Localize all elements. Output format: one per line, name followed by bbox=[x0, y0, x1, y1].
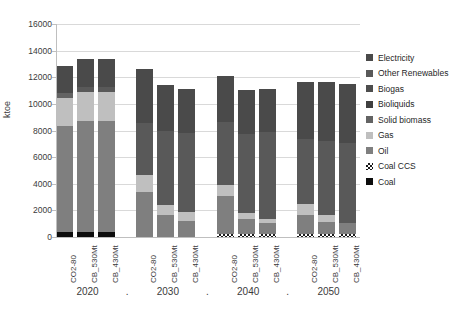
legend-label: Oil bbox=[378, 146, 388, 156]
x-axis-tick-label: CB_530Mt bbox=[331, 245, 340, 283]
legend-label: Other Renewables bbox=[378, 68, 448, 78]
group-separator: . bbox=[206, 286, 209, 297]
bar-segment-solid-biomass bbox=[56, 93, 73, 98]
legend-swatch-icon bbox=[366, 132, 373, 139]
bar-segment-oil bbox=[178, 221, 195, 237]
bar-segment-gas bbox=[318, 215, 335, 222]
stacked-bar[interactable] bbox=[318, 24, 335, 237]
y-axis-line bbox=[56, 24, 57, 237]
x-axis-group-labels: 2020.2030.2040.2050 bbox=[56, 286, 360, 304]
x-axis-tick-label: CB_530Mt bbox=[90, 245, 99, 283]
x-axis-tick-label: CO2-80 bbox=[310, 255, 319, 283]
bar-segment-electricity bbox=[98, 59, 115, 87]
legend-item[interactable]: Biogas bbox=[366, 81, 466, 97]
bar-segment-oil bbox=[339, 223, 356, 233]
bar-group bbox=[136, 24, 199, 237]
legend-swatch-icon bbox=[366, 116, 373, 123]
legend-swatch-icon bbox=[366, 70, 373, 77]
stacked-bar[interactable] bbox=[136, 24, 153, 237]
bar-segment-oil bbox=[217, 196, 234, 234]
bar-group bbox=[297, 24, 360, 237]
bar-segment-other-renewables bbox=[297, 139, 314, 205]
bar-segment-electricity bbox=[56, 66, 73, 93]
stacked-bar[interactable] bbox=[259, 24, 276, 237]
legend-item[interactable]: Coal CCS bbox=[366, 159, 466, 175]
y-axis-tick-label: 12000 bbox=[8, 72, 52, 82]
bar-segment-oil bbox=[157, 215, 174, 237]
legend-label: Solid biomass bbox=[378, 115, 431, 125]
legend-item[interactable]: Other Renewables bbox=[366, 66, 466, 82]
legend-label: Coal CCS bbox=[378, 161, 416, 171]
legend-item[interactable]: Coal bbox=[366, 174, 466, 190]
legend-swatch-icon bbox=[366, 54, 373, 61]
y-axis-tick-label: 2000 bbox=[8, 205, 52, 215]
legend-item[interactable]: Oil bbox=[366, 143, 466, 159]
legend-label: Electricity bbox=[378, 53, 414, 63]
stacked-bar[interactable] bbox=[217, 24, 234, 237]
bar-segment-gas bbox=[217, 185, 234, 196]
bar-segment-gas bbox=[259, 219, 276, 223]
legend-item[interactable]: Electricity bbox=[366, 50, 466, 66]
bar-segment-oil bbox=[297, 215, 314, 233]
bar-segment-other-renewables bbox=[238, 134, 255, 213]
x-axis-group-label: 2050 bbox=[297, 286, 360, 297]
group-separator: . bbox=[126, 286, 129, 297]
stacked-bar[interactable] bbox=[77, 24, 94, 237]
stacked-bar[interactable] bbox=[98, 24, 115, 237]
y-axis-tick-label: 6000 bbox=[8, 152, 52, 162]
y-axis-tick-label: 10000 bbox=[8, 99, 52, 109]
bar-segment-electricity bbox=[297, 82, 314, 139]
bar-segment-oil bbox=[56, 126, 73, 232]
legend-label: Bioliquids bbox=[378, 99, 414, 109]
x-axis-group-label: 2020 bbox=[56, 286, 119, 297]
x-axis-group-label: 2040 bbox=[217, 286, 280, 297]
bar-segment-other-renewables bbox=[339, 143, 356, 223]
y-axis-tick-label: 14000 bbox=[8, 46, 52, 56]
legend-swatch-icon bbox=[366, 147, 373, 154]
bar-segment-electricity bbox=[217, 76, 234, 122]
bar-segment-electricity bbox=[318, 82, 335, 141]
bar-segment-electricity bbox=[77, 59, 94, 87]
stacked-bar[interactable] bbox=[56, 24, 73, 237]
x-axis-tick-label: CB_430Mt bbox=[352, 245, 361, 283]
bar-segment-other-renewables bbox=[157, 131, 174, 205]
bar-segment-other-renewables bbox=[98, 87, 115, 92]
legend-label: Biogas bbox=[378, 84, 404, 94]
x-axis-tick-label: CB_430Mt bbox=[272, 245, 281, 283]
legend-label: Gas bbox=[378, 130, 394, 140]
y-axis-tick-label: 16000 bbox=[8, 19, 52, 29]
stacked-bar-chart: ktoe 02000400060008000100001200014000160… bbox=[0, 0, 469, 320]
legend-swatch-icon bbox=[366, 85, 373, 92]
bar-segment-oil bbox=[98, 121, 115, 232]
bar-segment-other-renewables bbox=[136, 123, 153, 175]
stacked-bar[interactable] bbox=[238, 24, 255, 237]
bar-segment-oil bbox=[259, 223, 276, 234]
x-axis-tick-label: CB_530Mt bbox=[251, 245, 260, 283]
bar-segment-gas bbox=[98, 92, 115, 121]
bar-group bbox=[217, 24, 280, 237]
bar-segment-electricity bbox=[259, 89, 276, 133]
bar-segment-gas bbox=[77, 92, 94, 121]
bar-segment-electricity bbox=[238, 90, 255, 135]
x-axis-tick-label: CO2-80 bbox=[149, 255, 158, 283]
legend-item[interactable]: Solid biomass bbox=[366, 112, 466, 128]
bar-segment-electricity bbox=[178, 89, 195, 133]
bar-segment-gas bbox=[157, 205, 174, 215]
legend-item[interactable]: Gas bbox=[366, 128, 466, 144]
legend-item[interactable]: Bioliquids bbox=[366, 97, 466, 113]
stacked-bar[interactable] bbox=[297, 24, 314, 237]
x-axis-scenario-labels: CO2-80CB_530MtCB_430MtCO2-80CB_530MtCB_4… bbox=[56, 239, 360, 285]
bar-segment-gas bbox=[178, 212, 195, 221]
bar-segment-gas bbox=[56, 98, 73, 126]
bar-segment-electricity bbox=[157, 85, 174, 131]
bar-segment-other-renewables bbox=[259, 132, 276, 219]
bar-segment-gas bbox=[297, 204, 314, 215]
bar-segment-electricity bbox=[339, 84, 356, 143]
stacked-bar[interactable] bbox=[339, 24, 356, 237]
x-axis-tick-label: CO2-80 bbox=[230, 255, 239, 283]
bar-segment-oil bbox=[318, 222, 335, 233]
stacked-bar[interactable] bbox=[157, 24, 174, 237]
y-axis-tick-label: 4000 bbox=[8, 179, 52, 189]
y-axis-ticks: 0200040006000800010000120001400016000 bbox=[0, 24, 52, 237]
stacked-bar[interactable] bbox=[178, 24, 195, 237]
